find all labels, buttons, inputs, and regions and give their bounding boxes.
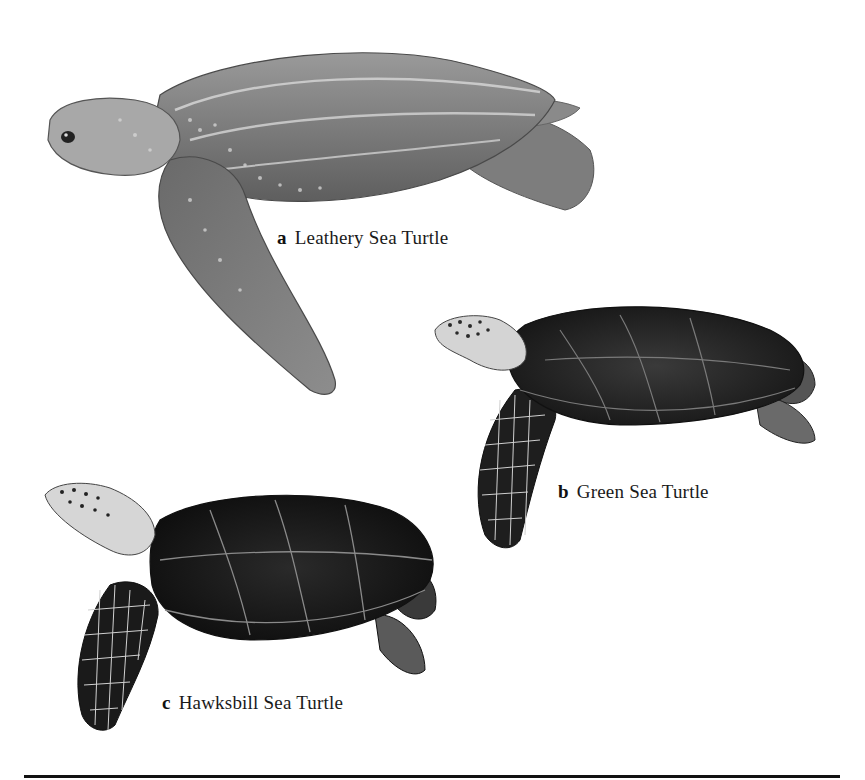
turtle-illustrations	[0, 0, 865, 780]
bottom-rule-divider	[24, 775, 840, 778]
caption-letter: a	[277, 227, 287, 248]
turtle-illustration-figure: aLeathery Sea Turtle bGreen Sea Turtle c…	[0, 0, 865, 780]
caption-text: Leathery Sea Turtle	[295, 227, 449, 248]
caption-letter: c	[162, 692, 171, 713]
caption-leathery-sea-turtle: aLeathery Sea Turtle	[277, 227, 448, 249]
caption-text: Green Sea Turtle	[577, 481, 709, 502]
caption-hawksbill-sea-turtle: cHawksbill Sea Turtle	[162, 692, 343, 714]
caption-green-sea-turtle: bGreen Sea Turtle	[558, 481, 709, 503]
green-sea-turtle-drawing	[435, 307, 815, 548]
caption-letter: b	[558, 481, 569, 502]
caption-text: Hawksbill Sea Turtle	[179, 692, 343, 713]
